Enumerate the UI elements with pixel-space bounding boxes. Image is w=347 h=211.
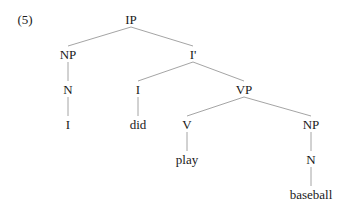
example-number: (5) — [17, 13, 32, 26]
tree-edge — [193, 62, 244, 81]
syntax-tree-diagram: (5) IP NP I' N I VP I did V NP play N ba… — [0, 0, 347, 211]
node-np-subject: NP — [60, 48, 77, 61]
node-n-object: N — [306, 153, 315, 166]
tree-edge — [131, 27, 193, 46]
node-i-bar: I' — [190, 48, 197, 61]
leaf-baseball: baseball — [290, 188, 333, 201]
tree-edge — [244, 97, 311, 116]
node-n-subject: N — [63, 83, 72, 96]
tree-edge — [187, 97, 244, 116]
node-np-object: NP — [303, 118, 320, 131]
leaf-play: play — [176, 153, 198, 166]
node-v: V — [182, 118, 191, 131]
leaf-i: I — [66, 118, 70, 131]
leaf-did: did — [130, 118, 147, 131]
node-ip: IP — [125, 13, 137, 26]
tree-edge — [68, 27, 131, 46]
tree-edges — [0, 0, 347, 211]
node-vp: VP — [236, 83, 253, 96]
tree-edge — [138, 62, 193, 81]
node-i: I — [136, 83, 140, 96]
